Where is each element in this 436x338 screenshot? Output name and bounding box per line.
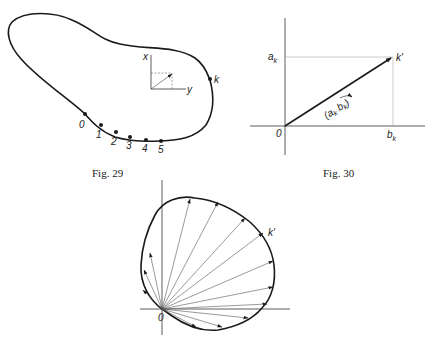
hodograph-vector-6 <box>162 233 263 309</box>
fig30-label-origin: 0 <box>276 128 282 139</box>
hodograph-vector-4 <box>162 202 218 309</box>
point-3 <box>128 135 132 139</box>
point-0 <box>83 112 87 116</box>
point-label-5: 5 <box>158 144 164 155</box>
hodograph-label-origin: 0 <box>158 312 164 323</box>
point-label-1: 1 <box>96 129 102 140</box>
hodograph-vector-1 <box>144 270 162 309</box>
fig29-caption: Fig. 29 <box>92 167 124 179</box>
point-4 <box>144 138 148 142</box>
fig30-label-b: bk <box>387 129 397 142</box>
hodograph-vector-10 <box>162 309 248 318</box>
fig30-label-a: ak <box>268 51 278 64</box>
fig29-local-axes: x y <box>142 51 193 95</box>
local-vector-arrow <box>151 74 172 89</box>
point-2 <box>114 130 118 134</box>
hodograph-vectors <box>143 199 273 327</box>
axis-label-x: x <box>142 51 149 62</box>
hodograph-vector-0 <box>143 290 162 309</box>
fig30-label-k-prime: k' <box>396 52 404 63</box>
point-1 <box>99 123 103 127</box>
fig30-vector-label: (ak bk) <box>322 97 352 122</box>
hodograph-vector-7 <box>162 261 273 309</box>
hodograph-closed-curve <box>141 197 275 330</box>
hodograph-vector-3 <box>162 199 190 309</box>
point-5 <box>159 139 163 143</box>
point-label-4: 4 <box>142 143 148 154</box>
hodograph-vector-11 <box>162 309 222 327</box>
fig-hodograph: 0 k' <box>140 180 290 335</box>
fig29-closed-curve <box>8 14 212 142</box>
point-label-2: 2 <box>110 136 117 147</box>
fig29: 0 1 2 3 4 5 k x y Fig. 29 <box>8 14 220 180</box>
fig30-vector-annotation-arrow <box>340 96 352 98</box>
point-label-k: k <box>214 74 220 85</box>
point-k <box>208 77 212 81</box>
hodograph-vector-12 <box>162 309 196 327</box>
fig30-caption: Fig. 30 <box>323 167 355 179</box>
hodograph-label-k-prime: k' <box>268 227 276 238</box>
axis-label-y: y <box>186 84 193 95</box>
hodograph-vector-2 <box>150 253 162 309</box>
fig29-points <box>83 77 212 143</box>
point-label-3: 3 <box>126 140 132 151</box>
fig30: ak bk 0 k' (ak bk) Fig. 30 <box>250 18 425 179</box>
point-label-0: 0 <box>79 119 85 130</box>
hodograph-vector-8 <box>162 287 273 309</box>
fig30-vector-arrow <box>285 58 391 126</box>
hodograph-vector-5 <box>162 218 245 309</box>
hodograph-vector-9 <box>162 304 267 309</box>
figure-canvas: 0 1 2 3 4 5 k x y Fig. 29 ak bk 0 k' (ak… <box>0 0 436 338</box>
